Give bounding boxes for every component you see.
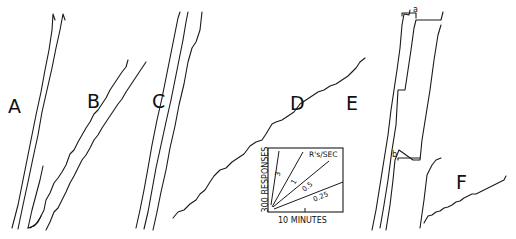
inset-legend-title: R's/SEC <box>309 150 337 159</box>
panel-label-c: C <box>152 92 165 111</box>
cumulative-record-figure <box>0 0 516 239</box>
panel-label-b: B <box>87 92 100 111</box>
panel-b-records <box>30 60 146 230</box>
panel-a-records <box>12 14 65 229</box>
inset-ylabel: 300 RESPONSES <box>261 130 270 230</box>
panel-label-a: A <box>8 97 21 116</box>
panel-label-e: E <box>346 94 358 113</box>
inset-xlabel: 10 MINUTES <box>278 216 327 225</box>
panel-e-records <box>372 10 443 230</box>
panel-c-records <box>136 12 202 230</box>
annotation-b: b <box>392 151 397 159</box>
annotation-a: a <box>413 6 418 14</box>
panel-label-f: F <box>456 173 467 192</box>
panel-label-d: D <box>290 94 305 113</box>
